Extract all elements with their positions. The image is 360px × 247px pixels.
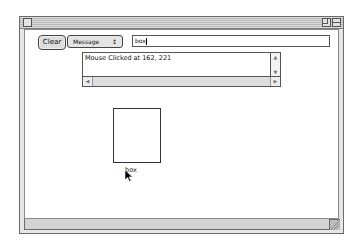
close-box-icon[interactable]: [23, 18, 32, 27]
vertical-scrollbar[interactable]: ▲ ▼: [270, 53, 280, 76]
scroll-down-arrow-icon[interactable]: ▼: [271, 68, 280, 76]
resize-grip-icon[interactable]: [329, 219, 340, 230]
scroll-right-arrow-icon[interactable]: ▶: [270, 77, 280, 86]
text-caret: [146, 38, 147, 45]
app-window: [19, 16, 344, 234]
horizontal-scrollbar[interactable]: ◀ ▶: [83, 76, 280, 86]
scroll-up-arrow-icon[interactable]: ▲: [271, 53, 280, 61]
clear-button[interactable]: Clear: [38, 35, 66, 50]
log-message: Mouse Clicked at 162, 221: [85, 54, 171, 62]
title-bar[interactable]: [20, 17, 343, 29]
mouse-pointer-icon: [125, 170, 133, 182]
collapse-box-icon[interactable]: [332, 18, 341, 27]
popup-selected-label: Message: [73, 36, 99, 47]
scroll-left-arrow-icon[interactable]: ◀: [83, 77, 93, 86]
text-input[interactable]: box: [132, 35, 330, 47]
message-log[interactable]: Mouse Clicked at 162, 221 ▲ ▼ ◀ ▶: [82, 52, 281, 87]
zoom-box-icon[interactable]: [322, 18, 331, 27]
text-input-value: box: [135, 37, 146, 44]
message-type-popup[interactable]: Message ↕: [67, 35, 123, 48]
bottom-scrollbar[interactable]: [24, 219, 339, 230]
updown-arrows-icon: ↕: [112, 36, 117, 47]
drawn-box[interactable]: [113, 108, 161, 163]
